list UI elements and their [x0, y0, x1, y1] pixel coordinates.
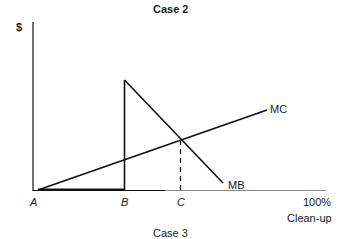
mb-label: MB [228, 180, 245, 191]
mb-curve [125, 80, 224, 183]
next-caption: Case 3 [153, 228, 188, 239]
x-tick-b: B [121, 197, 128, 208]
x-tick-max: 100% [303, 197, 331, 208]
chart-plot [0, 0, 342, 239]
y-axis-label: $ [16, 22, 22, 33]
mc-curve [38, 110, 267, 190]
x-axis-label: Clean-up [287, 213, 332, 224]
mc-label: MC [270, 104, 287, 115]
x-tick-a: A [30, 197, 37, 208]
x-tick-c: C [177, 197, 185, 208]
